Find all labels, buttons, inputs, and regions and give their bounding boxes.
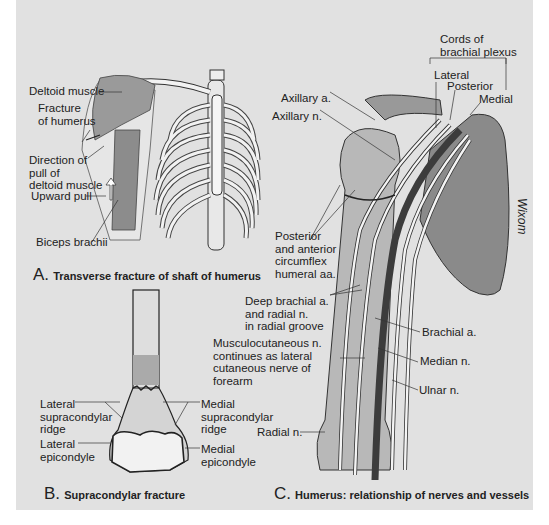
caption-c-letter: C.	[274, 484, 291, 503]
label-axillary-artery: Axillary a.	[281, 92, 331, 105]
label-biceps-brachii: Biceps brachii	[36, 236, 108, 249]
label-fracture-of-humerus: Fracture of humerus	[38, 102, 96, 127]
label-deltoid-muscle: Deltoid muscle	[29, 85, 104, 98]
label-deep-brachial: Deep brachial a. and radial n. in radial…	[245, 295, 329, 333]
label-direction-of-pull: Direction of pull of deltoid muscle	[29, 154, 103, 192]
label-circumflex-humeral: Posterior and anterior circumflex humera…	[275, 230, 336, 280]
label-ulnar-nerve: Ulnar n.	[419, 384, 459, 397]
caption-a: A. Transverse fracture of shaft of humer…	[33, 265, 261, 285]
label-axillary-nerve: Axillary n.	[272, 110, 322, 123]
label-medial-cord: Medial	[479, 93, 513, 106]
label-cords-of-brachial-plexus: Cords of brachial plexus	[440, 33, 517, 58]
caption-a-letter: A.	[33, 265, 49, 284]
shoulder-arm-drawing	[317, 95, 509, 480]
distal-humerus-drawing	[110, 290, 189, 472]
label-medial-epicondyle: Medial epicondyle	[201, 443, 256, 468]
label-posterior-cord: Posterior	[447, 80, 493, 93]
caption-c-text: Humerus: relationship of nerves and vess…	[295, 489, 529, 501]
label-median-nerve: Median n.	[420, 355, 471, 368]
label-musculocutaneous: Musculocutaneous n. continues as lateral…	[213, 337, 322, 387]
caption-a-text: Transverse fracture of shaft of humerus	[53, 270, 261, 282]
label-upward-pull: Upward pull	[31, 190, 92, 203]
caption-b-letter: B.	[44, 484, 60, 503]
caption-c: C. Humerus: relationship of nerves and v…	[274, 484, 529, 504]
label-radial-nerve: Radial n.	[257, 426, 302, 439]
caption-b: B. Supracondylar fracture	[44, 484, 185, 504]
label-lateral-supracondylar-ridge: Lateral supracondylar ridge	[40, 398, 112, 436]
caption-b-text: Supracondylar fracture	[64, 489, 185, 501]
artist-signature: Wixom	[515, 198, 528, 235]
label-brachial-artery: Brachial a.	[422, 326, 476, 339]
label-lateral-epicondyle: Lateral epicondyle	[40, 438, 95, 463]
